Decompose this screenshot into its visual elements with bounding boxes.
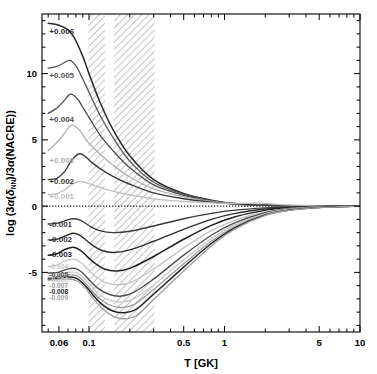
curve-label--0.003: -0.003 xyxy=(49,250,72,259)
x-tick-label: 10 xyxy=(355,337,366,348)
x-axis-title: T [GK] xyxy=(184,357,218,369)
y-axis-title: log (3α(δNN)/3α(NACRE)) xyxy=(4,110,17,236)
x-tick-label: 5 xyxy=(317,337,323,348)
figure-container: +0.006+0.005+0.004+0.003+0.002+0.001-0.0… xyxy=(0,0,377,374)
curve-label-+0.005: +0.005 xyxy=(49,71,74,80)
shaded-band xyxy=(88,15,104,331)
axes-group: 0.060.10.515101050-5 xyxy=(26,14,365,348)
curve-label-+0.001: +0.001 xyxy=(49,192,74,201)
shaded-band xyxy=(114,15,155,331)
y-tick-label: 10 xyxy=(26,68,37,79)
x-tick-label: 1 xyxy=(222,337,228,348)
curve-label-+0.002: +0.002 xyxy=(49,177,74,186)
svg-text:log (3α(δNN)/3α(NACRE)): log (3α(δNN)/3α(NACRE)) xyxy=(4,110,17,236)
curve-label--0.004: -0.004 xyxy=(49,263,68,270)
curve-label--0.009: -0.009 xyxy=(49,294,68,301)
y-tick-label: -5 xyxy=(29,267,38,278)
curve-label-+0.004: +0.004 xyxy=(49,115,74,124)
x-tick-label: 0.5 xyxy=(177,337,191,348)
curve-label-+0.003: +0.003 xyxy=(49,156,74,165)
x-tick-label: 0.06 xyxy=(50,337,69,348)
chart-canvas: +0.006+0.005+0.004+0.003+0.002+0.001-0.0… xyxy=(0,0,377,374)
x-tick-label: 0.1 xyxy=(82,337,96,348)
curve-label-+0.006: +0.006 xyxy=(49,27,74,36)
y-tick-label: 0 xyxy=(32,201,37,212)
curve-label--0.001: -0.001 xyxy=(49,220,72,229)
y-tick-label: 5 xyxy=(32,134,38,145)
curve-label--0.002: -0.002 xyxy=(49,235,72,244)
